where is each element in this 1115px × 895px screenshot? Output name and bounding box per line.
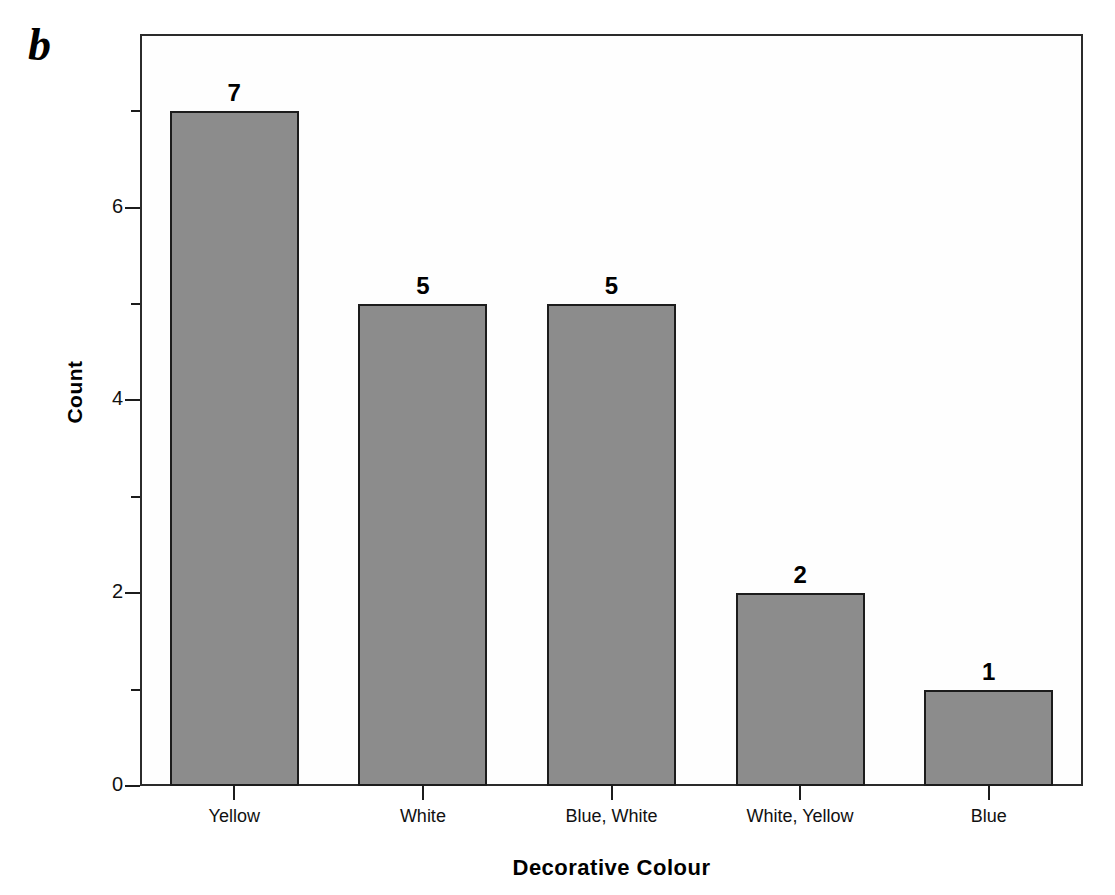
x-axis-tick (233, 786, 235, 800)
x-axis-tick (988, 786, 990, 800)
y-axis-tick-minor (131, 110, 140, 112)
x-axis-tick-label: Blue, White (502, 806, 722, 827)
bar: 5 (358, 304, 487, 786)
y-axis-tick-major (125, 207, 140, 209)
y-axis-tick-label: 0 (105, 773, 123, 796)
x-axis-tick (611, 786, 613, 800)
y-axis-tick-label: 6 (105, 195, 123, 218)
panel-label-b: b (28, 22, 50, 68)
y-axis-tick-label: 2 (105, 580, 123, 603)
y-axis-tick-minor (131, 689, 140, 691)
x-axis-tick-label: White (313, 806, 533, 827)
y-axis-tick-major (125, 592, 140, 594)
y-axis-tick-minor (131, 303, 140, 305)
x-axis-tick-label: Yellow (124, 806, 344, 827)
figure-container: b Count 0246 75521 YellowWhiteBlue, Whit… (0, 0, 1115, 895)
bars-layer: 75521 (140, 34, 1083, 786)
bar-value-label: 7 (172, 79, 297, 107)
x-axis-tick (422, 786, 424, 800)
bar-value-label: 5 (360, 272, 485, 300)
y-axis-tick-major (125, 399, 140, 401)
x-axis-tick (799, 786, 801, 800)
y-axis-tick-major (125, 785, 140, 787)
x-axis-tick-label: Blue (879, 806, 1099, 827)
bar-value-label: 5 (549, 272, 674, 300)
bar: 1 (924, 690, 1053, 786)
bar: 2 (736, 593, 865, 786)
y-axis-label: Count (63, 312, 87, 472)
x-axis-tick-label: White, Yellow (690, 806, 910, 827)
y-axis-tick-label: 4 (105, 387, 123, 410)
bar: 5 (547, 304, 676, 786)
bar-value-label: 2 (738, 561, 863, 589)
x-axis-label: Decorative Colour (140, 855, 1083, 881)
y-axis-tick-minor (131, 496, 140, 498)
bar: 7 (170, 111, 299, 786)
bar-value-label: 1 (926, 658, 1051, 686)
